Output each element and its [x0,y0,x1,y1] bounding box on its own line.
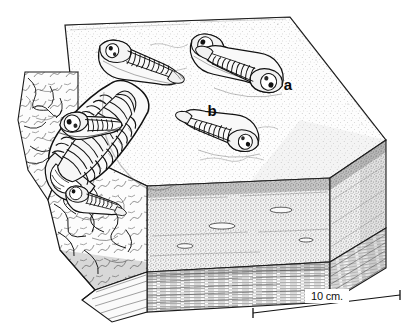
label-specimen-a: a [284,76,293,93]
figure-root: a b 10 cm. [0,0,417,330]
block-diagram-svg: a b 10 cm. [0,0,417,330]
scale-bar-label: 10 cm. [311,290,343,302]
label-specimen-b: b [207,102,216,119]
front-face-middle-bed [147,178,330,272]
